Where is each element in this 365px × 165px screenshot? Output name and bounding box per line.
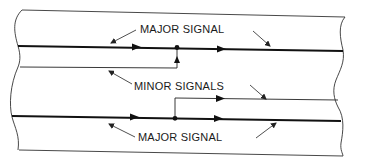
leader-minor-right bbox=[250, 85, 266, 99]
label-major-signal-top: MAJOR SIGNAL bbox=[140, 23, 224, 35]
leader-major-top-right bbox=[253, 31, 270, 46]
flow-arrow-icon bbox=[174, 56, 180, 63]
flow-arrow-icon bbox=[132, 44, 141, 51]
minor-line-bottom bbox=[175, 95, 338, 118]
leader-major-bottom-right bbox=[256, 123, 276, 138]
flow-arrow-icon bbox=[130, 114, 139, 121]
minor-line-top bbox=[20, 48, 180, 68]
major-line-top bbox=[18, 44, 343, 53]
label-major-signal-bottom: MAJOR SIGNAL bbox=[138, 131, 222, 143]
left-break-edge bbox=[10, 10, 22, 150]
leader-major-bottom-left bbox=[109, 124, 135, 137]
bottom-edge bbox=[19, 150, 343, 156]
flow-arrow-icon bbox=[214, 115, 223, 122]
junction-dot-bottom bbox=[173, 116, 178, 121]
leader-minor-left bbox=[109, 71, 132, 84]
label-minor-signals: MINOR SIGNALS bbox=[134, 80, 224, 92]
top-edge bbox=[22, 10, 345, 17]
flow-arrow-icon bbox=[217, 46, 226, 53]
junction-dot-top bbox=[175, 45, 180, 50]
flow-arrow-icon bbox=[216, 95, 225, 102]
leader-major-top-left bbox=[111, 30, 136, 43]
right-break-edge bbox=[334, 17, 345, 156]
